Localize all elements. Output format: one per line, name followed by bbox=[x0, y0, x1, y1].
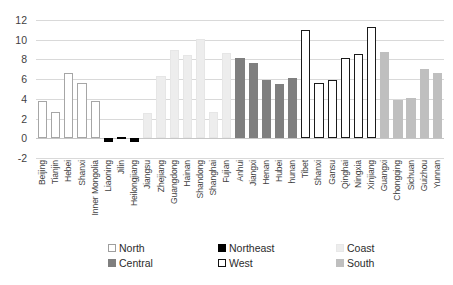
legend-label: South bbox=[347, 258, 374, 269]
bar bbox=[341, 58, 350, 138]
bar bbox=[275, 84, 284, 138]
x-tick-label: Guizhou bbox=[420, 160, 429, 191]
x-tick-label: Guangdong bbox=[170, 160, 179, 204]
legend-swatch-icon bbox=[108, 244, 116, 252]
bar bbox=[433, 73, 442, 138]
x-tick-label: Guangxi bbox=[380, 160, 389, 191]
bar bbox=[170, 50, 179, 139]
x-tick-label: Tianjin bbox=[51, 160, 60, 184]
y-tick-label: 0 bbox=[21, 133, 27, 144]
bar bbox=[406, 98, 415, 138]
bar bbox=[354, 54, 363, 139]
y-tick-label: 2 bbox=[21, 113, 27, 124]
x-tick-label: Liaoning bbox=[104, 160, 113, 192]
legend-label: North bbox=[119, 243, 145, 254]
x-tick-label: Shanghai bbox=[209, 160, 218, 196]
bar bbox=[288, 78, 297, 138]
x-tick-label: Qinghai bbox=[341, 160, 350, 189]
bar bbox=[420, 69, 429, 138]
legend-swatch-icon bbox=[336, 244, 344, 252]
x-tick-label: Shandong bbox=[196, 160, 205, 198]
x-tick-label: Shanxi bbox=[78, 160, 87, 186]
x-tick-label: Hubei bbox=[275, 160, 284, 182]
bar bbox=[117, 137, 126, 139]
legend-item-coast[interactable]: Coast bbox=[336, 243, 374, 254]
legend-swatch-icon bbox=[218, 244, 226, 252]
x-axis-tick-labels: BeijingTianjinHebeiShanxiInner MongoliaL… bbox=[36, 160, 444, 238]
legend-label: Coast bbox=[347, 243, 374, 254]
x-tick-label: Hainan bbox=[183, 160, 192, 187]
bar bbox=[77, 83, 86, 138]
bar bbox=[38, 101, 47, 138]
bar bbox=[196, 39, 205, 139]
bar bbox=[262, 80, 271, 138]
legend-item-north[interactable]: North bbox=[108, 243, 145, 254]
legend-item-northeast[interactable]: Northeast bbox=[218, 243, 275, 254]
x-tick-label: Beijing bbox=[38, 160, 47, 185]
legend-label: Central bbox=[119, 258, 153, 269]
bar bbox=[64, 73, 73, 138]
bar bbox=[380, 52, 389, 139]
chart-legend: NorthCentralNortheastWestCoastSouth bbox=[36, 243, 444, 277]
x-tick-label: Gansu bbox=[328, 160, 337, 185]
legend-label: Northeast bbox=[229, 243, 275, 254]
bar bbox=[235, 58, 244, 138]
bar bbox=[393, 100, 402, 138]
x-tick-label: Inner Mongolia bbox=[91, 160, 100, 215]
x-tick-label: Heilongjiang bbox=[130, 160, 139, 206]
x-tick-label: Henan bbox=[262, 160, 271, 185]
legend-item-central[interactable]: Central bbox=[108, 258, 153, 269]
bar bbox=[301, 30, 310, 138]
bar bbox=[328, 80, 337, 138]
x-tick-label: Tibet bbox=[301, 160, 310, 178]
y-tick-label: -2 bbox=[18, 153, 27, 164]
x-tick-label: Anhui bbox=[236, 160, 245, 181]
bars-layer bbox=[36, 20, 444, 158]
bar-chart: 121086420-2 BeijingTianjinHebeiShanxiInn… bbox=[0, 0, 453, 285]
x-tick-label: hunan bbox=[288, 160, 297, 183]
bar bbox=[367, 27, 376, 138]
x-tick-label: Jiangxi bbox=[249, 160, 258, 186]
bar bbox=[130, 138, 139, 142]
y-axis-tick-labels: 121086420-2 bbox=[0, 20, 32, 158]
bar bbox=[51, 112, 60, 139]
x-tick-label: Hebei bbox=[64, 160, 73, 182]
y-tick-label: 10 bbox=[15, 34, 27, 45]
legend-swatch-icon bbox=[218, 259, 226, 267]
plot-area bbox=[36, 20, 444, 158]
x-tick-label: Shanxi bbox=[314, 160, 323, 186]
y-tick-label: 8 bbox=[21, 54, 27, 65]
bar bbox=[91, 101, 100, 138]
y-tick-label: 12 bbox=[15, 15, 27, 26]
bar bbox=[183, 55, 192, 139]
bar bbox=[222, 53, 231, 139]
legend-item-west[interactable]: West bbox=[218, 258, 253, 269]
legend-item-south[interactable]: South bbox=[336, 258, 374, 269]
gridline bbox=[36, 158, 444, 159]
bar bbox=[209, 112, 218, 139]
legend-swatch-icon bbox=[336, 259, 344, 267]
y-tick-label: 6 bbox=[21, 74, 27, 85]
x-tick-label: Fujian bbox=[222, 160, 231, 183]
legend-label: West bbox=[229, 258, 253, 269]
x-tick-label: Zhejiang bbox=[157, 160, 166, 192]
legend-swatch-icon bbox=[108, 259, 116, 267]
bar bbox=[156, 76, 165, 138]
bar bbox=[249, 63, 258, 138]
bar bbox=[314, 83, 323, 138]
x-tick-label: Ningxia bbox=[354, 160, 363, 188]
x-tick-label: Sichuan bbox=[407, 160, 416, 190]
x-tick-label: Yunnan bbox=[433, 160, 442, 189]
x-tick-label: Jilin bbox=[117, 160, 126, 174]
y-tick-label: 4 bbox=[21, 94, 27, 105]
x-tick-label: Xinjiang bbox=[367, 160, 376, 190]
bar bbox=[104, 138, 113, 142]
bar bbox=[143, 113, 152, 139]
x-tick-label: Jiangsu bbox=[143, 160, 152, 189]
x-tick-label: Chongqing bbox=[393, 160, 402, 201]
